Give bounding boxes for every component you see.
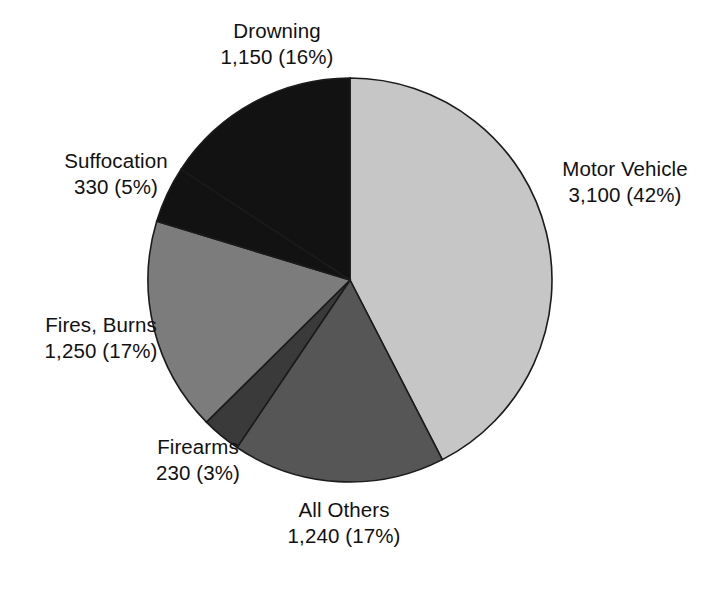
slice-label-firearms-name: Firearms — [110, 434, 286, 460]
slice-label-firearms-value: 230 (3%) — [110, 460, 286, 486]
slice-label-all-others-name: All Others — [246, 497, 442, 523]
slice-label-suffocation-name: Suffocation — [18, 148, 214, 174]
slice-label-suffocation: Suffocation 330 (5%) — [18, 148, 214, 200]
slice-label-fires-burns: Fires, Burns 1,250 (17%) — [2, 312, 200, 364]
slice-label-fires-burns-value: 1,250 (17%) — [2, 338, 200, 364]
slice-label-fires-burns-name: Fires, Burns — [2, 312, 200, 338]
slice-label-motor-vehicle-value: 3,100 (42%) — [530, 182, 703, 208]
slice-label-all-others: All Others 1,240 (17%) — [246, 497, 442, 549]
slice-label-motor-vehicle-name: Motor Vehicle — [530, 156, 703, 182]
slice-label-firearms: Firearms 230 (3%) — [110, 434, 286, 486]
slice-label-drowning: Drowning 1,150 (16%) — [182, 18, 372, 70]
slice-label-drowning-value: 1,150 (16%) — [182, 44, 372, 70]
slice-label-drowning-name: Drowning — [182, 18, 372, 44]
slice-label-motor-vehicle: Motor Vehicle 3,100 (42%) — [530, 156, 703, 208]
slice-label-suffocation-value: 330 (5%) — [18, 174, 214, 200]
pie-chart: Drowning 1,150 (16%) Suffocation 330 (5%… — [0, 0, 703, 589]
pie-slices-group — [148, 78, 552, 482]
slice-label-all-others-value: 1,240 (17%) — [246, 523, 442, 549]
